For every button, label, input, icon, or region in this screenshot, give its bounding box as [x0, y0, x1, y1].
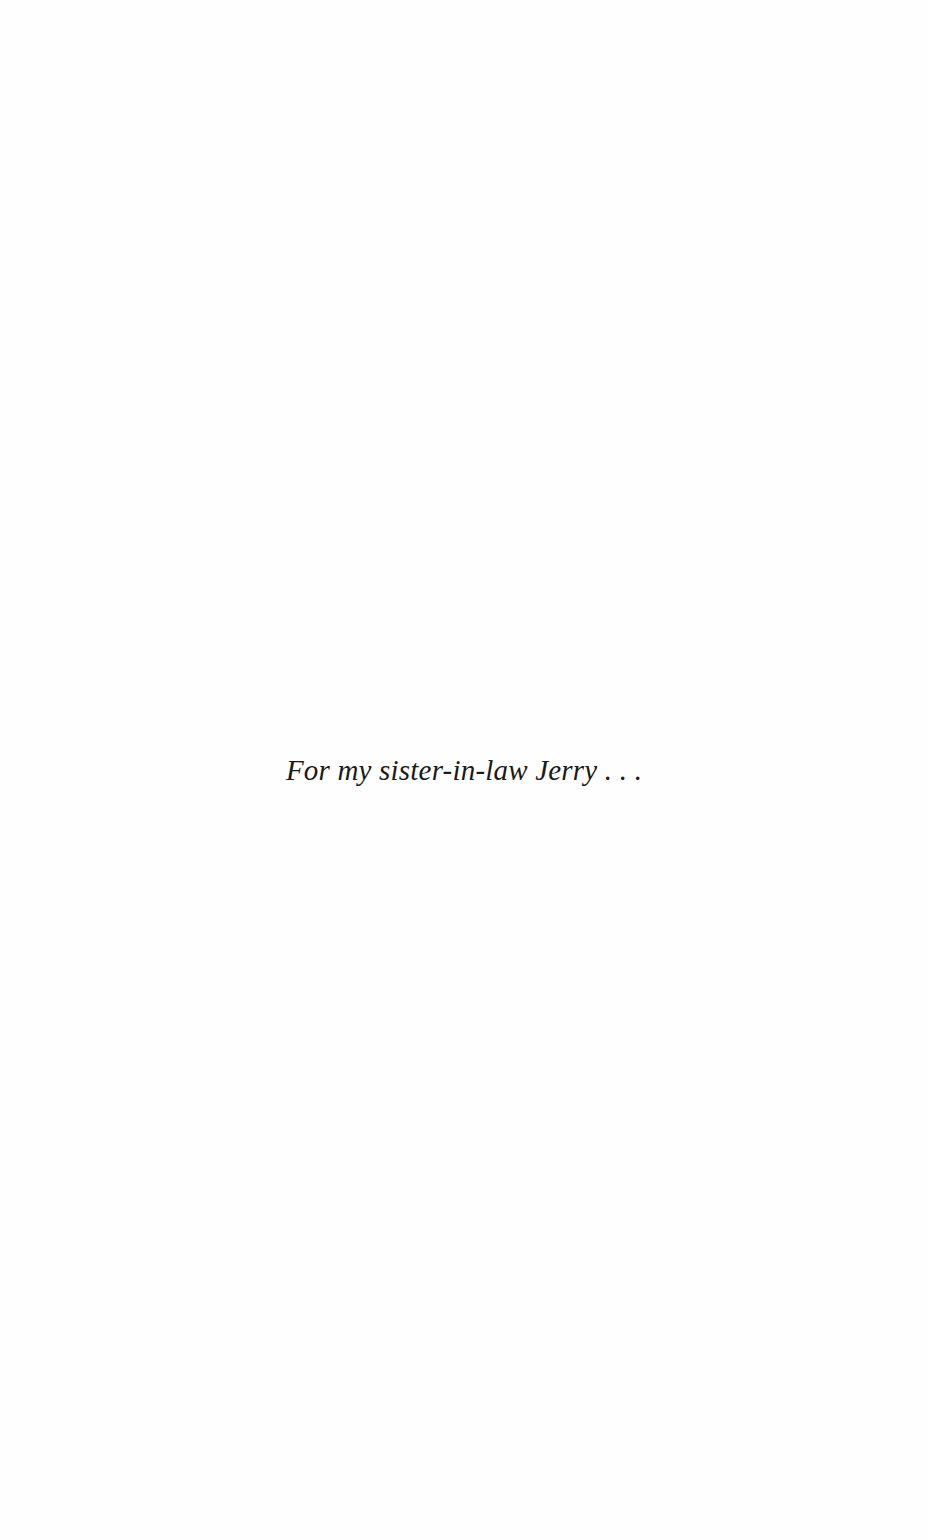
- book-page: For my sister-in-law Jerry . . .: [0, 0, 928, 1540]
- dedication-text: For my sister-in-law Jerry . . .: [0, 750, 928, 790]
